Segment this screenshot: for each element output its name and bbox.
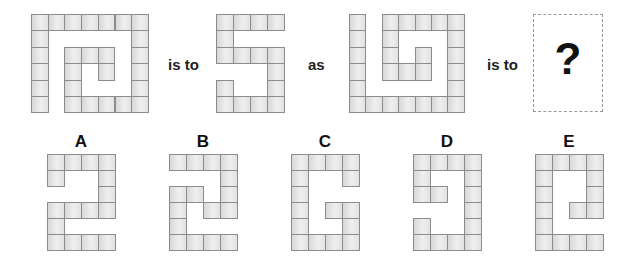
as-text: as [308,57,325,72]
grid-cell [220,170,238,187]
grid-cell [464,186,482,203]
grid-cell [220,202,238,219]
grid-cell [291,202,309,219]
grid-cell [98,186,116,203]
grid-cell [267,14,285,31]
grid-cell [382,63,399,80]
grid-cell [365,96,382,113]
grid-cell [203,234,221,251]
grid-cell [64,47,82,64]
grid-cell [349,30,366,47]
grid-cell [186,154,204,171]
grid-cell [308,234,326,251]
option-e-figure[interactable] [535,154,603,250]
grid-cell [250,96,268,113]
option-label-c: C [310,133,340,150]
grid-cell [131,96,149,113]
grid-cell [98,202,116,219]
grid-cell [216,14,234,31]
grid-cell [220,234,238,251]
grid-cell [569,154,587,171]
grid-cell [535,154,553,171]
grid-cell [267,63,285,80]
grid-cell [447,234,465,251]
grid-cell [447,154,465,171]
grid-cell [447,80,464,97]
grid-cell [552,234,570,251]
grid-cell [98,96,116,113]
grid-cell [47,202,65,219]
option-b-figure[interactable] [169,154,237,250]
grid-cell [203,154,221,171]
grid-cell [413,154,431,171]
grid-cell [81,47,99,64]
grid-cell [464,154,482,171]
grid-cell [64,96,82,113]
grid-cell [382,14,399,31]
grid-cell [115,14,133,31]
grid-cell [250,14,268,31]
grid-cell [430,154,448,171]
grid-cell [413,170,431,187]
figure-2-five [216,14,284,112]
grid-cell [586,234,604,251]
grid-cell [267,47,285,64]
is-to-text-2: is to [487,57,518,72]
grid-cell [31,30,49,47]
grid-cell [413,218,431,235]
grid-cell [47,218,65,235]
grid-cell [586,154,604,171]
grid-cell [464,202,482,219]
grid-cell [431,14,448,31]
grid-cell [220,154,238,171]
grid-cell [233,96,251,113]
grid-cell [115,96,133,113]
grid-cell [186,234,204,251]
grid-cell [325,154,343,171]
grid-cell [220,186,238,203]
grid-cell [291,218,309,235]
grid-cell [98,14,116,31]
option-c-figure[interactable] [291,154,359,250]
grid-cell [382,96,399,113]
grid-cell [447,30,464,47]
grid-cell [342,154,360,171]
grid-cell [415,14,432,31]
grid-cell [291,154,309,171]
grid-cell [430,234,448,251]
grid-cell [464,218,482,235]
grid-cell [31,14,49,31]
grid-cell [535,202,553,219]
grid-cell [233,47,251,64]
grid-cell [291,170,309,187]
grid-cell [342,170,360,187]
option-label-a: A [66,133,96,150]
answer-placeholder-box: ? [533,14,603,112]
grid-cell [586,186,604,203]
grid-cell [431,96,448,113]
grid-cell [413,234,431,251]
grid-cell [131,30,149,47]
grid-cell [349,63,366,80]
grid-cell [535,186,553,203]
grid-cell [569,234,587,251]
option-a-figure[interactable] [47,154,115,250]
figure-1-spiral [31,14,148,112]
grid-cell [291,186,309,203]
grid-cell [31,63,49,80]
grid-cell [216,30,234,47]
grid-cell [325,202,343,219]
option-label-b: B [188,133,218,150]
option-d-figure[interactable] [413,154,481,250]
grid-cell [64,234,82,251]
grid-cell [81,96,99,113]
grid-cell [81,202,99,219]
grid-cell [398,14,415,31]
grid-cell [342,202,360,219]
grid-cell [586,202,604,219]
grid-cell [447,96,464,113]
grid-cell [430,186,448,203]
grid-cell [216,47,234,64]
grid-cell [233,14,251,31]
grid-cell [464,234,482,251]
